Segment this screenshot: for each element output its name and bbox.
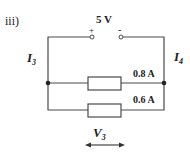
branch1-current-label: 0.8 A bbox=[133, 69, 155, 79]
negative-sign: - bbox=[118, 25, 121, 35]
v3-symbol: V bbox=[93, 125, 102, 140]
v3-subscript: 3 bbox=[102, 133, 106, 142]
resistor-2 bbox=[88, 104, 121, 117]
current-i3-label: I3 bbox=[27, 51, 36, 67]
branch2-current-label: 0.6 A bbox=[133, 95, 155, 105]
question-number: iii) bbox=[5, 15, 19, 27]
i4-subscript: 4 bbox=[179, 57, 183, 66]
positive-terminal bbox=[90, 35, 94, 39]
i3-subscript: 3 bbox=[32, 58, 36, 67]
positive-sign: + bbox=[89, 26, 94, 35]
wire-top-left bbox=[48, 37, 90, 110]
resistor-1 bbox=[88, 77, 121, 90]
double-arrow-icon bbox=[85, 143, 125, 148]
voltage-v3-label: V3 bbox=[93, 126, 106, 142]
source-voltage-label: 5 V bbox=[96, 14, 112, 25]
junction-left bbox=[46, 81, 51, 86]
junction-right bbox=[162, 81, 167, 86]
current-i4-label: I4 bbox=[174, 50, 183, 66]
negative-terminal bbox=[119, 35, 123, 39]
